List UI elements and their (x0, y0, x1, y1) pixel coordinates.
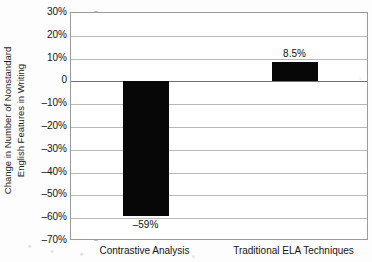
x-axis-category-labels: Contrastive AnalysisTraditional ELA Tech… (70, 243, 368, 259)
y-axis-tick-label: –10% (26, 98, 67, 108)
y-axis-tick-labels: 30%20%10%0–10%–20%–30%–40%–50%–60%–70% (26, 12, 67, 240)
y-axis-tick-label: 0 (26, 75, 67, 85)
bar-chart: Change in Number of Nonstandard English … (0, 0, 372, 262)
y-axis-tick-label: –20% (26, 121, 67, 131)
y-axis-tick-label: –70% (26, 235, 67, 245)
gridline (71, 36, 367, 37)
bar-value-label: –59% (133, 219, 159, 230)
y-axis-tick-label: 10% (26, 53, 67, 63)
gridline (71, 59, 367, 60)
y-axis-tick-label: –60% (26, 212, 67, 222)
y-axis-title-line-1: Change in Number of Nonstandard (3, 46, 16, 193)
zero-line (71, 81, 367, 82)
gridline (71, 195, 367, 196)
plot-area: –59%8.5% (70, 12, 368, 240)
gridline (71, 150, 367, 151)
gridline (71, 104, 367, 105)
y-axis-tick-label: –50% (26, 189, 67, 199)
gridline (71, 173, 367, 174)
y-axis-tick-label: –40% (26, 167, 67, 177)
bar (272, 62, 318, 81)
bar-value-label: 8.5% (283, 48, 306, 59)
y-axis-tick-label: 30% (26, 7, 67, 17)
bar (123, 81, 169, 216)
y-axis-tick-label: 20% (26, 30, 67, 40)
gridline (71, 218, 367, 219)
x-axis-category-label: Traditional ELA Techniques (233, 244, 354, 257)
x-axis-category-label: Contrastive Analysis (99, 244, 189, 257)
y-axis-tick-label: –30% (26, 144, 67, 154)
gridline (71, 127, 367, 128)
